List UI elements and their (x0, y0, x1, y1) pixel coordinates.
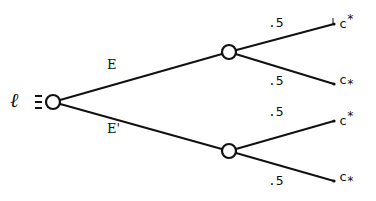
chance-node-E (222, 45, 236, 59)
equivalence-symbol (35, 95, 43, 111)
terminal-point (332, 179, 335, 182)
dash (35, 107, 42, 109)
probability-label: .5 (268, 16, 284, 29)
outcome-c-star: c* (339, 114, 354, 127)
edge-root-to-E (53, 52, 229, 102)
tree-edges (0, 0, 376, 201)
terminal-point (332, 82, 335, 85)
edge-root-to-E-prime (53, 102, 229, 151)
edge-E-prime-to-c-star-upper (229, 121, 334, 151)
outcome-base: c (339, 16, 347, 31)
event-label-E-prime: E' (107, 122, 120, 135)
event-label-E: E (107, 58, 117, 71)
root-chance-node (46, 95, 60, 109)
probability-label: .5 (268, 105, 284, 118)
outcome-base: c (339, 169, 347, 184)
outcome-base: c (339, 72, 347, 87)
outcome-superscript-star: * (347, 109, 354, 123)
dash (35, 101, 42, 103)
outcome-subscript-star: * (347, 174, 354, 188)
outcome-c-sub-star: c* (339, 73, 354, 86)
chance-node-E-prime (222, 144, 236, 158)
probability-tree-diagram: ℓ E E' .5 .5 .5 .5 c* c* c* c* (0, 0, 376, 201)
outcome-subscript-star: * (347, 77, 354, 91)
outcome-c-sub-star: c* (339, 170, 354, 183)
outcome-superscript-star: * (347, 12, 354, 26)
probability-label: .5 (268, 174, 284, 187)
probability-label: .5 (268, 74, 284, 87)
outcome-c-star: c* (339, 17, 354, 30)
dash (35, 95, 42, 97)
root-lottery-label: ℓ (10, 90, 18, 110)
terminal-point (332, 119, 335, 122)
outcome-base: c (339, 113, 347, 128)
